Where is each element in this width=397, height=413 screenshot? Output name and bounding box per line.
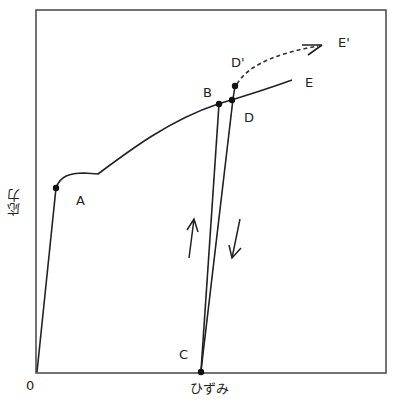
x-axis-label: ひずみ [190, 382, 229, 395]
stress-strain-curve [56, 80, 292, 188]
point-d-prime-marker [232, 83, 238, 89]
label-a: A [76, 194, 85, 207]
label-d: D [244, 111, 254, 124]
stress-strain-diagram [0, 0, 397, 413]
point-d-marker [229, 97, 235, 103]
label-e: E [305, 76, 313, 89]
point-b-marker [216, 101, 222, 107]
label-b: B [203, 86, 212, 99]
label-c: C [179, 348, 188, 361]
arrow-down-icon [229, 219, 241, 258]
point-c-marker [198, 369, 204, 375]
point-a-marker [53, 185, 59, 191]
arrow-up-icon [187, 219, 198, 258]
label-d-prime: D' [231, 56, 245, 69]
label-e-prime: E' [338, 36, 350, 49]
y-axis-label: 応力 [4, 188, 23, 216]
origin-label: 0 [26, 379, 34, 392]
plot-frame [36, 10, 386, 373]
elastic-line [37, 188, 56, 372]
